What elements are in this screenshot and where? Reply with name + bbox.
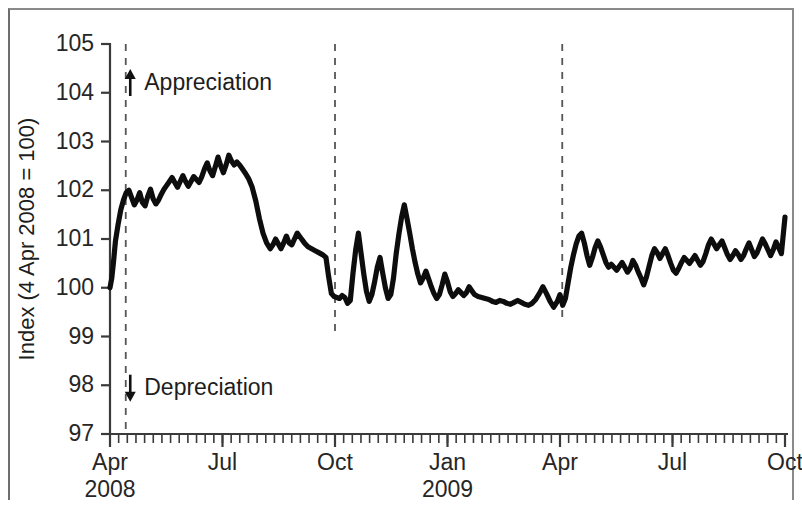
figure-container: 979899100101102103104105 Apr2008JulOctJa… xyxy=(0,0,802,508)
annotations-group: AppreciationDepreciation xyxy=(125,69,274,402)
x-tick-label-1: Jul xyxy=(208,449,237,475)
annotation-appreciation: Appreciation xyxy=(125,69,272,96)
annotation-depreciation: Depreciation xyxy=(125,374,274,402)
y-tick-label-100: 100 xyxy=(56,274,94,300)
x-year-label-2009: 2009 xyxy=(422,476,473,502)
y-tick-label-97: 97 xyxy=(68,420,94,446)
y-axis-title: Index (4 Apr 2008 = 100) xyxy=(14,118,39,361)
y-tick-label-98: 98 xyxy=(68,371,94,397)
annotation-label-depreciation: Depreciation xyxy=(144,374,273,400)
x-tick-label-5: Jul xyxy=(658,449,687,475)
x-tick-label-3: Jan xyxy=(429,449,466,475)
x-year-label-2008: 2008 xyxy=(84,476,135,502)
y-tick-label-99: 99 xyxy=(68,323,94,349)
x-tick-label-6: Oct xyxy=(767,449,802,475)
y-tick-label-105: 105 xyxy=(56,30,94,56)
y-axis-ticks-group xyxy=(101,44,110,434)
x-tick-label-0: Apr xyxy=(92,449,128,475)
annotation-label-appreciation: Appreciation xyxy=(144,69,272,95)
y-tick-labels-group: 979899100101102103104105 xyxy=(56,30,95,446)
x-tick-label-4: Apr xyxy=(542,449,578,475)
y-tick-label-103: 103 xyxy=(56,128,94,154)
data-series-line xyxy=(110,155,785,307)
x-axis-ticks-group xyxy=(110,434,785,447)
y-tick-label-101: 101 xyxy=(56,225,94,251)
y-tick-label-104: 104 xyxy=(56,79,95,105)
y-tick-label-102: 102 xyxy=(56,176,94,202)
chart-canvas: 979899100101102103104105 Apr2008JulOctJa… xyxy=(0,0,802,508)
x-tick-label-2: Oct xyxy=(317,449,353,475)
x-tick-labels-group: Apr2008JulOctJan2009AprJulOct xyxy=(84,449,802,502)
